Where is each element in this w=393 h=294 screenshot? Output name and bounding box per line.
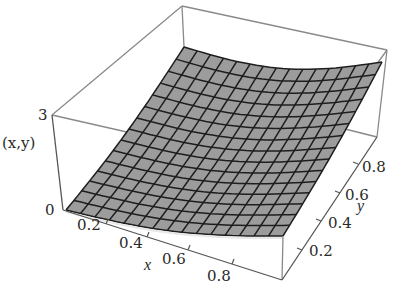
y-tick-0.4 (316, 219, 321, 221)
y-tick-0.8 (353, 162, 358, 164)
y-tick-0.6 (335, 191, 340, 193)
box-edge-back-vertical (182, 6, 184, 47)
y-tick-label-0.8: 0.8 (362, 158, 386, 176)
z-axis-line (52, 115, 63, 210)
x-tick-0.8 (232, 259, 234, 264)
x-tick-0.6 (188, 245, 190, 250)
y-tick-label-0.6: 0.6 (345, 186, 369, 204)
box-edge-right-lower (345, 129, 377, 137)
x-tick-label-0.6: 0.6 (162, 250, 186, 268)
y-tick-label-0.2: 0.2 (309, 242, 333, 260)
x-tick-0.4 (147, 232, 149, 237)
box-edge-front-vertical (282, 236, 283, 280)
x-axis-label: x (143, 256, 151, 273)
surface-plot: 3 (x,y) 0 0.2 0.4 x 0.6 0.8 0.2 0.4 y 0.… (0, 0, 393, 294)
x-tick-label-0.4: 0.4 (119, 234, 143, 252)
surface-fill (66, 47, 382, 236)
x-tick-label-0.2: 0.2 (77, 216, 101, 234)
z-min-label: 0 (45, 201, 55, 219)
surface (66, 47, 382, 236)
y-tick-0.2 (297, 248, 302, 250)
z-axis-label: (x,y) (2, 134, 35, 152)
x-tick-label-0.8: 0.8 (207, 267, 231, 285)
box-edge-top-back (182, 6, 387, 50)
z-max-label: 3 (38, 106, 48, 124)
y-tick-label-0.4: 0.4 (328, 214, 352, 232)
